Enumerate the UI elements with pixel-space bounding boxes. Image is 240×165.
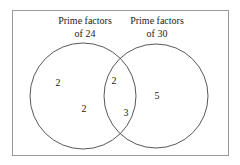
set-24-label-line1: Prime factors [58,15,112,26]
intersection-element: 3 [124,107,129,118]
set-30-element: 5 [155,90,160,101]
set-30-label-line2: of 30 [147,28,168,39]
set-24-element: 2 [82,103,87,114]
venn-diagram: Prime factors of 24 Prime factors of 30 … [0,0,240,165]
set-24-element: 2 [56,77,61,88]
set-24-label-line2: of 24 [75,28,96,39]
intersection-element: 2 [112,75,117,86]
set-30-label-line1: Prime factors [130,15,184,26]
